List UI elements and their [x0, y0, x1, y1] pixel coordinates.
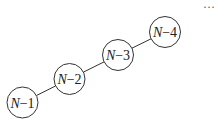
- node-n4: N−4: [150, 17, 181, 48]
- edge-n3-n4: [132, 39, 151, 48]
- edge-n1-n2: [36, 86, 55, 96]
- continuation-ellipsis: ···: [203, 0, 215, 15]
- node-n1: N−1: [7, 87, 38, 118]
- edge-n2-n3: [83, 62, 104, 72]
- chain-diagram: N−1N−2N−3N−4 ···: [0, 0, 219, 124]
- node-label: N−4: [152, 25, 177, 40]
- node-n2: N−2: [54, 64, 85, 95]
- diagram-svg: N−1N−2N−3N−4: [0, 0, 219, 124]
- node-label: N−3: [105, 48, 130, 63]
- node-label: N−2: [56, 72, 81, 87]
- node-n3: N−3: [103, 40, 134, 71]
- node-label: N−1: [9, 96, 34, 111]
